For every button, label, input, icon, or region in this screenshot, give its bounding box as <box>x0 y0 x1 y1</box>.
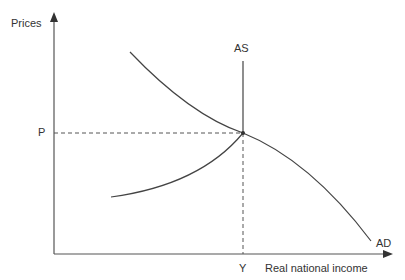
as-curve <box>111 133 243 197</box>
income-marker: Y <box>239 262 246 274</box>
ad-label: AD <box>376 237 391 249</box>
x-axis-arrow-icon <box>383 250 393 258</box>
diagram-canvas <box>0 0 405 280</box>
equilibrium-point <box>241 131 245 135</box>
price-marker: P <box>38 126 45 138</box>
ad-curve <box>130 52 371 241</box>
x-axis-label: Real national income <box>265 262 368 274</box>
ad-as-diagram: Prices Real national income P Y AS AD <box>0 0 405 280</box>
as-label: AS <box>234 42 249 54</box>
y-axis-label: Prices <box>11 17 42 29</box>
y-axis-arrow-icon <box>50 12 58 22</box>
